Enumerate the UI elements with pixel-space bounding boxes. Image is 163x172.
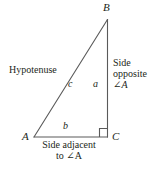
vertex-label-c: C <box>112 131 120 143</box>
side-opposite-line-2: opposite <box>113 69 147 80</box>
vertex-label-b: B <box>103 2 110 14</box>
right-angle-marker-icon <box>100 129 108 138</box>
side-label-b: b <box>63 121 68 132</box>
side-adjacent-annotation: Side adjacent to ∠A <box>37 140 101 162</box>
hypotenuse-annotation: Hypotenuse <box>9 65 57 76</box>
side-opposite-line-3: ∠A <box>113 80 147 91</box>
side-opposite-annotation: Side opposite ∠A <box>113 58 147 90</box>
side-adjacent-line-2: to ∠A <box>37 151 101 162</box>
side-label-a: a <box>93 79 98 90</box>
side-label-c: c <box>68 79 72 90</box>
vertex-label-a: A <box>22 131 29 143</box>
right-triangle-figure: B A C a b c Hypotenuse Side opposite ∠A … <box>0 0 163 172</box>
